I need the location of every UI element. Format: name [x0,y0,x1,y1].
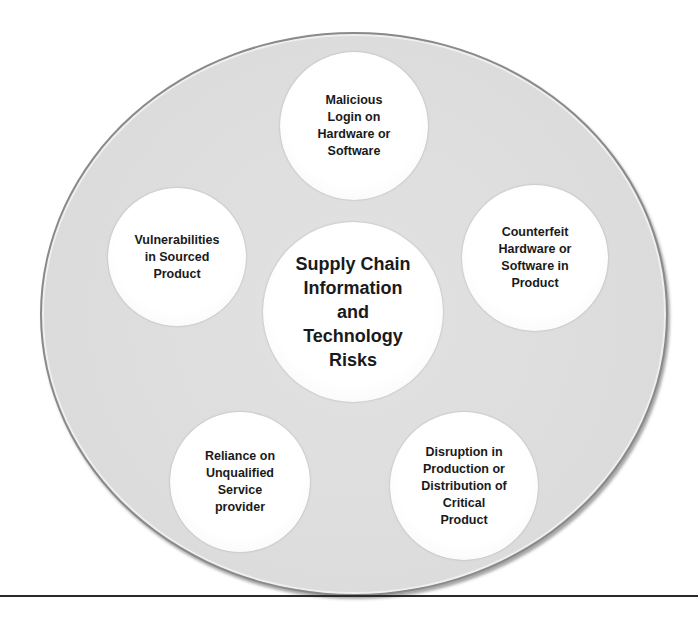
node-center-supply-chain-risks: Supply Chain Information and Technology … [263,222,443,402]
node-disruption: Disruption in Production or Distribution… [390,412,538,560]
node-label: Malicious Login on Hardware or Software [318,92,391,160]
node-vulnerabilities: Vulnerabilities in Sourced Product [108,188,246,326]
node-counterfeit: Counterfeit Hardware or Software in Prod… [462,185,608,331]
node-label: Counterfeit Hardware or Software in Prod… [499,224,572,292]
bottom-rule [0,595,698,597]
node-reliance-unqualified: Reliance on Unqualified Service provider [170,412,310,552]
center-label: Supply Chain Information and Technology … [295,252,410,372]
node-label: Reliance on Unqualified Service provider [205,448,275,516]
node-label: Disruption in Production or Distribution… [421,444,506,529]
node-label: Vulnerabilities in Sourced Product [135,232,220,283]
node-malicious-login: Malicious Login on Hardware or Software [280,52,428,200]
